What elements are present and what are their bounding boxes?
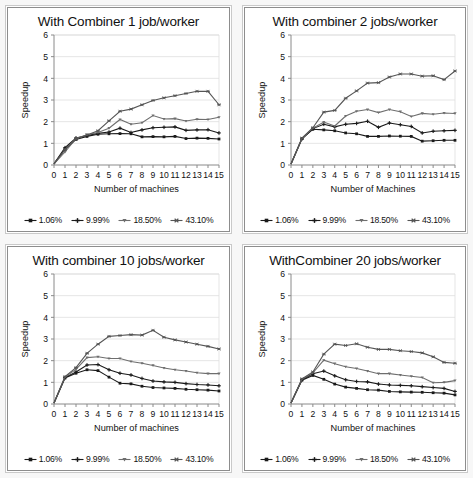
legend-marker-icon <box>170 455 183 464</box>
legend-label: 1.06% <box>39 454 62 464</box>
plot-area-2: 01234560123456789101112131415SpeedupNumb… <box>8 247 229 470</box>
svg-text:2: 2 <box>310 409 315 419</box>
svg-text:5: 5 <box>107 170 112 180</box>
svg-text:0: 0 <box>52 170 57 180</box>
legend-marker-icon <box>118 455 131 464</box>
svg-text:0: 0 <box>280 399 285 409</box>
legend-label: 43.10% <box>422 454 450 464</box>
svg-text:1: 1 <box>280 139 285 149</box>
svg-text:6: 6 <box>43 269 48 279</box>
svg-text:5: 5 <box>107 409 112 419</box>
svg-text:Speedup: Speedup <box>20 321 30 358</box>
legend-marker-icon <box>71 455 84 464</box>
legend-2: 1.06%9.99%18.50%43.10% <box>8 454 229 464</box>
panel-top-left: With Combiner 1 job/worker 0123456012345… <box>0 0 237 239</box>
svg-text:6: 6 <box>118 409 123 419</box>
svg-text:15: 15 <box>450 170 460 180</box>
plot-area-0: 01234560123456789101112131415SpeedupNumb… <box>8 8 229 231</box>
legend-label: 1.06% <box>275 215 298 225</box>
legend-item[interactable]: 9.99% <box>71 454 109 464</box>
svg-text:7: 7 <box>365 409 370 419</box>
svg-text:Speedup: Speedup <box>20 82 30 119</box>
svg-text:13: 13 <box>192 170 202 180</box>
legend-item[interactable]: 43.10% <box>170 454 213 464</box>
svg-text:1: 1 <box>63 170 68 180</box>
svg-text:14: 14 <box>203 409 213 419</box>
legend-item[interactable]: 1.06% <box>24 454 62 464</box>
legend-item[interactable]: 18.50% <box>355 454 398 464</box>
svg-text:12: 12 <box>417 409 427 419</box>
svg-text:1: 1 <box>300 409 305 419</box>
svg-text:0: 0 <box>289 170 294 180</box>
svg-text:2: 2 <box>74 170 79 180</box>
panel-bottom-right: WithCombiner 20 jobs/worker 012345601234… <box>237 239 473 478</box>
svg-text:9: 9 <box>387 170 392 180</box>
svg-text:6: 6 <box>280 30 285 40</box>
svg-text:8: 8 <box>376 170 381 180</box>
legend-label: 18.50% <box>370 454 398 464</box>
svg-text:9: 9 <box>151 409 156 419</box>
svg-text:Number of machines: Number of machines <box>331 423 416 433</box>
legend-item[interactable]: 43.10% <box>407 454 450 464</box>
legend-item[interactable]: 9.99% <box>71 215 109 225</box>
panel-bottom-right-frame: WithCombiner 20 jobs/worker 012345601234… <box>244 246 466 471</box>
legend-marker-icon <box>355 455 368 464</box>
svg-text:11: 11 <box>407 409 416 419</box>
svg-text:5: 5 <box>280 291 285 301</box>
legend-3: 1.06%9.99%18.50%43.10% <box>245 454 465 464</box>
svg-text:12: 12 <box>181 170 191 180</box>
svg-text:4: 4 <box>332 170 337 180</box>
legend-label: 18.50% <box>370 215 398 225</box>
svg-text:6: 6 <box>354 409 359 419</box>
svg-text:4: 4 <box>332 409 337 419</box>
svg-text:6: 6 <box>43 30 48 40</box>
svg-text:5: 5 <box>280 52 285 62</box>
legend-label: 43.10% <box>185 454 213 464</box>
legend-marker-icon <box>118 216 131 225</box>
svg-text:Speedup: Speedup <box>257 321 267 358</box>
legend-item[interactable]: 43.10% <box>170 215 213 225</box>
legend-label: 9.99% <box>323 454 346 464</box>
legend-item[interactable]: 1.06% <box>260 454 298 464</box>
svg-text:13: 13 <box>428 409 438 419</box>
legend-1: 1.06%9.99%18.50%43.10% <box>245 215 465 225</box>
svg-text:3: 3 <box>43 334 48 344</box>
svg-text:12: 12 <box>417 170 427 180</box>
svg-text:7: 7 <box>129 409 134 419</box>
legend-item[interactable]: 18.50% <box>118 215 161 225</box>
svg-text:10: 10 <box>396 409 406 419</box>
svg-text:11: 11 <box>171 170 180 180</box>
svg-text:15: 15 <box>214 409 224 419</box>
legend-marker-icon <box>260 455 273 464</box>
legend-marker-icon <box>260 216 273 225</box>
svg-text:1: 1 <box>43 139 48 149</box>
legend-item[interactable]: 18.50% <box>355 215 398 225</box>
legend-label: 18.50% <box>133 454 161 464</box>
legend-item[interactable]: 9.99% <box>308 454 346 464</box>
svg-text:0: 0 <box>43 160 48 170</box>
legend-item[interactable]: 18.50% <box>118 454 161 464</box>
svg-text:9: 9 <box>151 170 156 180</box>
svg-text:2: 2 <box>280 117 285 127</box>
legend-item[interactable]: 9.99% <box>308 215 346 225</box>
svg-text:2: 2 <box>280 356 285 366</box>
panel-top-left-frame: With Combiner 1 job/worker 0123456012345… <box>7 7 230 232</box>
legend-item[interactable]: 1.06% <box>24 215 62 225</box>
svg-text:4: 4 <box>280 74 285 84</box>
figure-root: With Combiner 1 job/worker 0123456012345… <box>0 0 473 478</box>
legend-item[interactable]: 1.06% <box>260 215 298 225</box>
svg-text:3: 3 <box>280 334 285 344</box>
legend-0: 1.06%9.99%18.50%43.10% <box>8 215 229 225</box>
svg-text:5: 5 <box>43 52 48 62</box>
panel-bottom-left: With combiner 10 jobs/worker 01234560123… <box>0 239 237 478</box>
legend-marker-icon <box>24 216 37 225</box>
svg-text:2: 2 <box>74 409 79 419</box>
legend-item[interactable]: 43.10% <box>407 215 450 225</box>
svg-text:2: 2 <box>43 356 48 366</box>
svg-text:3: 3 <box>321 409 326 419</box>
legend-label: 9.99% <box>86 215 109 225</box>
svg-text:5: 5 <box>43 291 48 301</box>
svg-text:11: 11 <box>171 409 180 419</box>
svg-text:3: 3 <box>280 95 285 105</box>
svg-text:2: 2 <box>310 170 315 180</box>
